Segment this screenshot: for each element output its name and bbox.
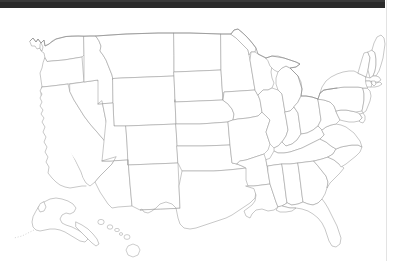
page-edge-divider (386, 0, 387, 261)
state-kansas[interactable] (176, 122, 230, 146)
island-molokai[interactable] (115, 228, 120, 231)
island-maui[interactable] (124, 235, 130, 240)
state-florida[interactable] (282, 199, 341, 247)
screenshot-root (0, 0, 398, 261)
state-nebraska[interactable] (175, 100, 234, 124)
island-oahu[interactable] (107, 225, 113, 229)
state-south-dakota[interactable] (174, 70, 223, 102)
window-titlebar (0, 0, 385, 8)
state-wyoming[interactable] (113, 76, 176, 126)
map-svg[interactable] (0, 8, 386, 261)
state-oregon[interactable] (40, 57, 84, 87)
state-north-dakota[interactable] (174, 33, 221, 72)
state-colorado[interactable] (126, 124, 178, 165)
state-connecticut[interactable] (366, 81, 372, 87)
state-washington[interactable] (30, 36, 84, 62)
island-lanai[interactable] (119, 233, 122, 236)
titlebar-sheen (0, 0, 385, 2)
alaska-aleutian-chain (14, 230, 34, 238)
us-outline-map[interactable] (0, 8, 386, 261)
island-hawaii-big-island[interactable] (126, 244, 140, 257)
island-kauai[interactable] (98, 219, 104, 224)
state-new-mexico[interactable] (128, 160, 180, 210)
state-vermont[interactable] (358, 52, 370, 77)
